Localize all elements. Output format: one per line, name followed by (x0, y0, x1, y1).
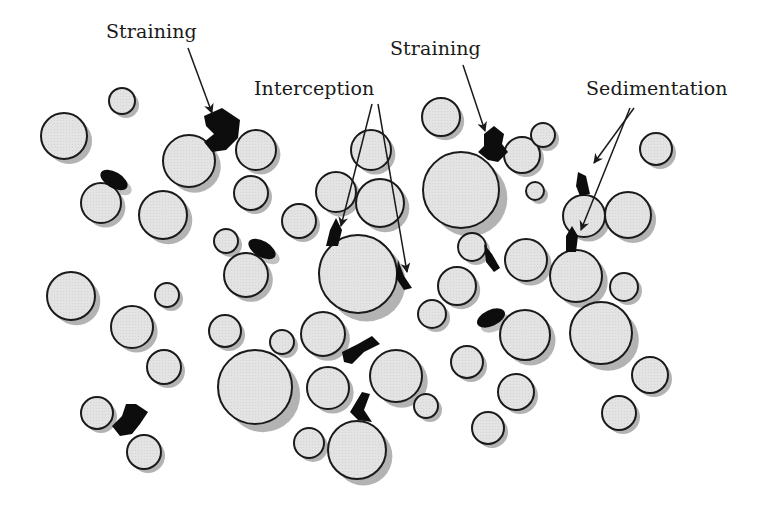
filter-grain (209, 315, 241, 347)
filter-grain (610, 273, 638, 301)
filter-grain (127, 435, 161, 469)
filter-grain (147, 350, 181, 384)
filter-grain (41, 113, 87, 159)
filter-grain (301, 312, 345, 356)
label-sedimentation: Sedimentation (586, 77, 728, 99)
filter-grain (47, 272, 95, 320)
filter-grain (418, 300, 446, 328)
filter-grain (214, 229, 238, 253)
filter-grain (422, 98, 460, 136)
filter-grain (370, 350, 422, 402)
arrow-sedimentation-top (594, 108, 634, 163)
filter-grain (307, 367, 349, 409)
label-straining-right: Straining (390, 37, 481, 59)
filter-grain (526, 182, 544, 200)
filter-grain (282, 204, 316, 238)
filter-grain (109, 88, 135, 114)
filter-grain (458, 233, 486, 261)
straining-particle-center-low-icon (350, 392, 372, 422)
filter-grain (155, 283, 179, 307)
filter-grain (640, 133, 672, 165)
filter-grain (605, 192, 651, 238)
filter-grain (570, 302, 632, 364)
arrow-straining-right (463, 65, 485, 131)
filter-grain (111, 306, 153, 348)
straining-particle-bottom-left-icon (112, 404, 148, 436)
arrow-straining-left (188, 48, 212, 113)
filter-grain (423, 152, 499, 228)
filter-grain (550, 250, 602, 302)
particle-small-mid-icon (484, 244, 500, 272)
filter-grain (294, 428, 324, 458)
filter-grain (270, 330, 294, 354)
filter-grain (81, 397, 113, 429)
filter-grain (500, 310, 550, 360)
filter-grain (632, 357, 668, 393)
filter-grain (505, 239, 547, 281)
filter-grain (531, 123, 555, 147)
filter-grain (234, 176, 268, 210)
filter-grain (328, 421, 386, 479)
filter-grain (224, 253, 268, 297)
filter-grain (472, 412, 504, 444)
filter-grain (498, 374, 534, 410)
filter-grain (218, 350, 292, 424)
filter-grain (319, 235, 397, 313)
filter-grain (139, 191, 187, 239)
label-straining-left: Straining (106, 20, 197, 42)
filter-grain (236, 130, 276, 170)
filter-grain (438, 267, 476, 305)
filter-grain (356, 179, 404, 227)
filter-grain (451, 346, 483, 378)
filter-grain (602, 396, 636, 430)
label-interception: Interception (254, 77, 374, 99)
filter-grain (414, 394, 438, 418)
sedimentation-particle-top-icon (576, 172, 590, 196)
straining-particle-left-icon (204, 108, 240, 152)
